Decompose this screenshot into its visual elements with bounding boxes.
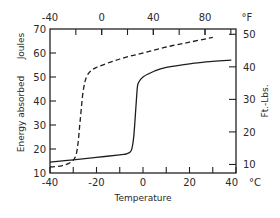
x-top-tick-label: 0 — [98, 12, 104, 23]
bottom-axis-title: Temperature — [113, 193, 171, 203]
y-right-tick-label: 30 — [243, 94, 256, 105]
y-right-tick-label: 20 — [243, 127, 256, 138]
left-axis-title: Energy absorbed — [16, 76, 26, 152]
x-tick-label: 20 — [183, 177, 196, 188]
data-series — [50, 37, 231, 167]
axis-tick-labels: -40-200204010203040506070-40040801020304… — [33, 12, 255, 188]
y-right-tick-label: 50 — [243, 29, 256, 40]
x-top-tick-label: 40 — [147, 12, 160, 23]
y-left-tick-label: 10 — [33, 168, 46, 179]
plot-frame — [50, 29, 236, 173]
plot-border — [50, 29, 236, 173]
left-axis-unit: Joules — [16, 32, 26, 60]
x-tick-label: 0 — [140, 177, 146, 188]
x-tick-label: 40 — [225, 177, 238, 188]
y-right-tick-label: 40 — [243, 62, 256, 73]
y-left-tick-label: 50 — [33, 72, 46, 83]
y-left-tick-label: 70 — [33, 24, 46, 35]
top-axis-unit: °F — [242, 12, 253, 23]
series-dashed-line — [50, 37, 213, 167]
right-axis-title: Ft.-Lbs. — [260, 84, 270, 117]
x-tick-label: -20 — [88, 177, 104, 188]
y-right-tick-label: 10 — [243, 159, 256, 170]
y-left-tick-label: 30 — [33, 120, 46, 131]
y-left-tick-label: 40 — [33, 96, 46, 107]
y-left-tick-label: 60 — [33, 48, 46, 59]
axis-ticks — [50, 29, 236, 173]
impact-energy-chart: -40-200204010203040506070-40040801020304… — [0, 0, 280, 218]
y-left-tick-label: 20 — [33, 144, 46, 155]
bottom-axis-unit: °C — [249, 177, 261, 188]
series-solid-line — [50, 60, 231, 162]
x-top-tick-label: 80 — [199, 12, 212, 23]
x-top-tick-label: -40 — [42, 12, 58, 23]
